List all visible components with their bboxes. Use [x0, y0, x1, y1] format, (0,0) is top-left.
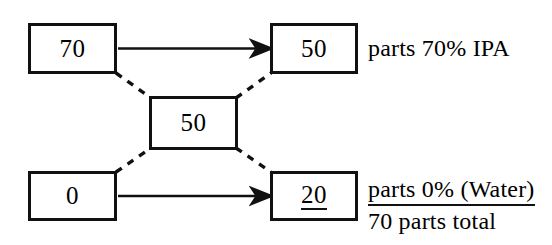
label-low-concentration-total: parts 0% (Water) 70 parts total: [368, 176, 535, 235]
box-high-concentration-input: 70: [28, 23, 117, 74]
dashed-connector-top-right: [236, 73, 271, 98]
dashed-connector-top-left: [116, 73, 151, 98]
box-target-concentration: 50: [149, 96, 238, 150]
box-low-concentration-input: 0: [28, 171, 117, 221]
box-value-bottom-right: 20: [301, 182, 327, 210]
label-total-parts-text: 70 parts total: [368, 206, 535, 235]
pearson-square-diagram: 70 50 50 0 20 parts 70% IPA parts 0% (Wa…: [0, 0, 552, 245]
label-high-concentration: parts 70% IPA: [368, 35, 510, 62]
dashed-connector-bottom-left: [116, 148, 151, 172]
box-value-top-left: 70: [60, 36, 86, 62]
label-high-concentration-text: parts 70% IPA: [368, 35, 510, 61]
box-value-top-right: 50: [301, 36, 327, 62]
box-high-parts-output: 50: [270, 23, 358, 74]
box-low-parts-output: 20: [270, 171, 358, 221]
dashed-connector-bottom-right: [236, 148, 271, 172]
box-value-middle: 50: [181, 110, 207, 136]
box-value-bottom-left: 0: [66, 183, 79, 209]
label-low-concentration-text: parts 0% (Water): [368, 176, 535, 206]
